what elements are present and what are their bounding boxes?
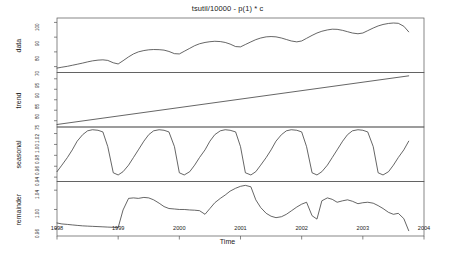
ytick-label-seasonal: 1.02 bbox=[36, 125, 41, 143]
series-trend bbox=[57, 76, 409, 125]
xtick-label: 2000 bbox=[173, 225, 185, 231]
ytick-label-remainder: 1.04 bbox=[36, 181, 41, 199]
xtick-label: 1998 bbox=[51, 225, 63, 231]
series-data bbox=[57, 23, 409, 68]
x-axis-label: Time bbox=[0, 238, 455, 245]
plot-canvas bbox=[0, 0, 455, 256]
ytick-label-trend: 95 bbox=[36, 70, 41, 88]
panel-frame-data bbox=[57, 18, 424, 73]
xtick-label: 2004 bbox=[418, 225, 430, 231]
ytick-label-data: 100 bbox=[36, 13, 41, 31]
series-remainder bbox=[57, 185, 409, 230]
decomposition-chart: tsutil/10000 - p(1) * c data trend seaso… bbox=[0, 0, 455, 256]
xtick-label: 2003 bbox=[357, 225, 369, 231]
xtick-label: 2002 bbox=[295, 225, 307, 231]
xtick-label: 2001 bbox=[234, 225, 246, 231]
series-seasonal bbox=[57, 130, 409, 175]
xtick-label: 1999 bbox=[112, 225, 124, 231]
ytick-label-remainder: 0.96 bbox=[36, 220, 41, 238]
ytick-label-remainder: 1.00 bbox=[36, 200, 41, 218]
panel-frame-trend bbox=[57, 73, 424, 128]
